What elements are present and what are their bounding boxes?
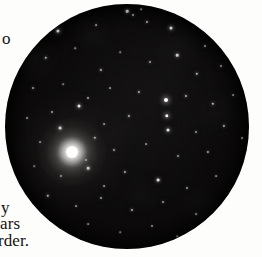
star-point — [176, 235, 178, 237]
star-point — [113, 149, 115, 151]
star-field-disc — [5, 4, 249, 249]
star-field-figure — [5, 4, 249, 249]
star-point — [33, 165, 35, 167]
star-point — [59, 127, 62, 130]
star-point — [232, 94, 234, 96]
sky-grain-texture — [5, 4, 249, 249]
star-point — [151, 225, 153, 227]
star-point — [126, 10, 129, 13]
star-point — [215, 175, 217, 177]
star-point — [87, 167, 90, 170]
star-point — [140, 8, 142, 10]
star-point — [85, 159, 87, 161]
star-point — [189, 16, 191, 18]
star-point — [103, 185, 105, 187]
star-point — [195, 213, 197, 215]
star-point — [51, 111, 53, 113]
star-point — [119, 231, 121, 233]
star-point — [164, 98, 168, 102]
document-page: o y ars rder. — [0, 0, 262, 257]
star-point — [100, 197, 102, 199]
star-point — [109, 87, 111, 89]
star-point — [78, 105, 81, 108]
star-point — [132, 14, 134, 16]
star-point — [60, 175, 62, 177]
star-point — [157, 179, 160, 182]
star-point — [220, 65, 222, 67]
star-point — [87, 97, 89, 99]
star-point — [62, 83, 64, 85]
star-point — [167, 129, 170, 132]
star-point — [74, 47, 76, 49]
star-point — [119, 51, 121, 53]
star-point — [87, 223, 89, 225]
star-point — [32, 87, 34, 89]
star-point — [241, 137, 243, 139]
star-point — [176, 54, 179, 57]
star-point — [170, 27, 173, 30]
star-point — [195, 131, 197, 133]
star-point — [103, 123, 105, 125]
star-point — [177, 155, 179, 157]
star-point — [162, 201, 164, 203]
bright-star-core — [66, 146, 78, 158]
star-point — [39, 141, 41, 143]
star-point — [75, 205, 77, 207]
star-point — [145, 143, 147, 145]
star-point — [149, 61, 151, 63]
star-point — [186, 187, 188, 189]
star-point — [26, 117, 28, 119]
star-point — [204, 45, 206, 47]
star-point — [95, 24, 97, 26]
